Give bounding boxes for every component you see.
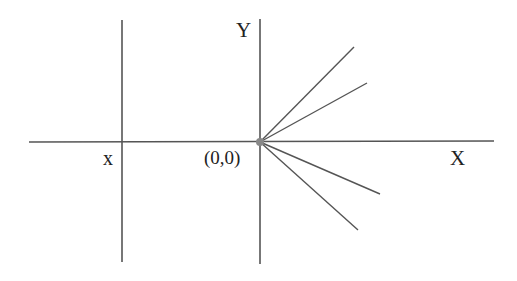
x-position-label: x xyxy=(103,147,113,169)
origin-label: (0,0) xyxy=(204,147,240,169)
coordinate-diagram: Y X x (0,0) xyxy=(0,0,517,281)
y-axis-label: Y xyxy=(236,18,251,42)
origin-point xyxy=(256,138,264,146)
x-axis-label: X xyxy=(450,146,465,170)
